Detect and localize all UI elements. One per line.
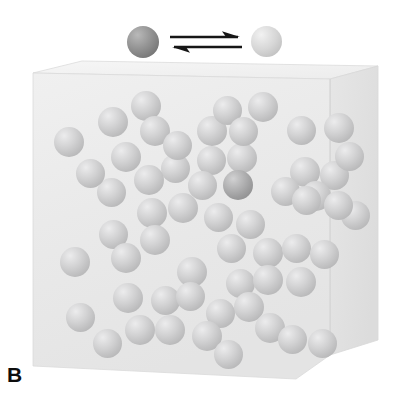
particle-sphere xyxy=(54,127,84,157)
particle-sphere xyxy=(113,283,143,313)
panel-label: B xyxy=(7,364,22,385)
particle-sphere xyxy=(176,282,205,311)
particle-sphere xyxy=(204,203,233,232)
particle-sphere xyxy=(188,171,217,200)
particle-sphere xyxy=(286,267,316,297)
particle-sphere xyxy=(125,315,155,345)
particle-sphere xyxy=(66,303,95,332)
particle-sphere xyxy=(324,191,353,220)
particle-sphere xyxy=(310,240,339,269)
particle-sphere xyxy=(140,225,170,255)
particle-sphere xyxy=(223,170,253,200)
particle-sphere xyxy=(98,107,128,137)
particle-sphere xyxy=(111,142,141,172)
particle-sphere xyxy=(137,198,167,228)
particle-collection xyxy=(0,0,408,409)
particle-sphere xyxy=(292,186,321,215)
particle-sphere xyxy=(253,265,283,295)
particle-sphere xyxy=(324,113,354,143)
particle-sphere xyxy=(60,247,90,277)
particle-sphere xyxy=(151,286,180,315)
particle-sphere xyxy=(282,234,311,263)
particle-sphere xyxy=(217,234,246,263)
particle-sphere xyxy=(155,315,185,345)
particle-sphere xyxy=(134,165,164,195)
particle-sphere xyxy=(76,159,105,188)
particle-sphere xyxy=(278,325,307,354)
particle-sphere xyxy=(227,143,257,173)
figure-panel-b: B xyxy=(0,0,408,409)
particle-sphere xyxy=(335,142,364,171)
particle-sphere xyxy=(163,131,192,160)
particle-sphere xyxy=(287,116,316,145)
particle-sphere xyxy=(229,117,258,146)
particle-sphere xyxy=(236,210,265,239)
particle-sphere xyxy=(253,238,283,268)
particle-sphere xyxy=(93,329,122,358)
particle-sphere xyxy=(214,340,243,369)
particle-sphere xyxy=(308,329,337,358)
particle-sphere xyxy=(248,92,278,122)
particle-sphere xyxy=(111,243,141,273)
